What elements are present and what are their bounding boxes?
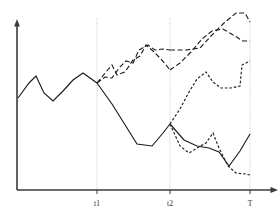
x-axis-arrowhead — [271, 187, 279, 193]
series-line-baseline-continuation — [170, 124, 250, 166]
series-line-upper-scenario-b — [97, 45, 170, 83]
series-line-mid-scenario — [170, 61, 250, 124]
x-tick-labels-group: t1 t2 T — [94, 199, 253, 208]
x-tick-label-T: T — [248, 199, 253, 208]
x-tick-label-t2: t2 — [167, 199, 173, 208]
x-tick-label-t1: t1 — [94, 199, 100, 208]
y-axis-arrowhead — [14, 19, 20, 27]
series-line-upper-scenario-b-cont — [170, 13, 250, 50]
chart-container: t1 t2 T — [0, 0, 279, 219]
series-line-lower-scenario — [170, 124, 250, 175]
series-line-upper-scenario-a — [97, 45, 170, 83]
scenario-forecast-chart: t1 t2 T — [0, 0, 279, 219]
series-line-baseline-path — [97, 83, 170, 146]
series-line-history — [18, 73, 97, 101]
series-group — [18, 13, 250, 175]
